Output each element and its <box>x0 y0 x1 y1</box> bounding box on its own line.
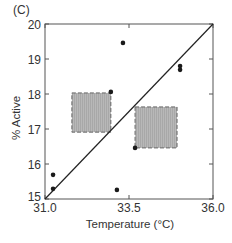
data-point <box>51 173 56 178</box>
y-tick-label: 17 <box>28 123 42 137</box>
shaded-box-1 <box>72 93 111 132</box>
y-tick-label: 18 <box>28 88 42 102</box>
data-point <box>51 187 56 192</box>
data-point <box>133 146 138 151</box>
x-tick-label: 33.5 <box>117 201 141 215</box>
data-point <box>109 90 114 95</box>
y-tick-label: 19 <box>28 53 42 67</box>
x-tick-label: 31.0 <box>33 201 57 215</box>
scatter-chart: 15161718192031.033.536.0 <box>0 0 232 243</box>
y-tick-label: 16 <box>28 158 42 172</box>
y-tick-label: 20 <box>28 18 42 32</box>
data-point <box>121 41 126 46</box>
shaded-box-2 <box>135 107 177 148</box>
data-point <box>115 188 120 193</box>
x-axis-label: Temperature (°C) <box>55 218 205 230</box>
data-point <box>178 68 183 73</box>
x-tick-label: 36.0 <box>201 201 225 215</box>
y-axis-label: % Active <box>10 88 22 148</box>
reference-line <box>45 24 213 199</box>
